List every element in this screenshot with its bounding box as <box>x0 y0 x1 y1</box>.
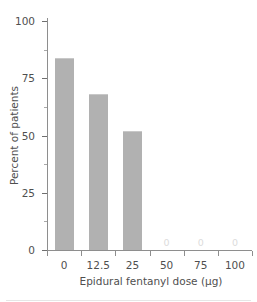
y-axis-title: Percent of patients <box>6 21 22 250</box>
x-tick <box>184 251 185 256</box>
bar-chart-figure: Percent of patients 0255075100 000 012.5… <box>0 0 257 302</box>
y-tick-label: 25 <box>22 187 35 199</box>
x-tick-label: 50 <box>160 259 173 271</box>
plot-area: 0255075100 000 012.5255075100 <box>47 21 252 250</box>
x-tick <box>47 251 48 256</box>
y-tick-major: 50 <box>42 136 47 137</box>
x-tick-label: 75 <box>194 259 207 271</box>
y-tick-minor <box>44 107 47 108</box>
y-tick-minor <box>44 164 47 165</box>
bar-value-label: 0 <box>198 237 204 248</box>
y-tick-label: 100 <box>15 15 35 27</box>
y-tick-label: 0 <box>28 244 35 256</box>
y-tick-label: 50 <box>22 130 35 142</box>
footer-divider <box>6 300 251 301</box>
y-tick-major: 75 <box>42 78 47 79</box>
x-axis-title: Epidural fentanyl dose (µg) <box>45 275 257 287</box>
x-tick <box>150 251 151 256</box>
x-tick-label: 12.5 <box>87 259 110 271</box>
y-tick-minor <box>44 221 47 222</box>
x-tick-label: 100 <box>225 259 245 271</box>
bar <box>55 58 74 250</box>
bar-value-label: 0 <box>232 237 238 248</box>
y-tick-major: 100 <box>42 21 47 22</box>
y-tick-minor <box>44 50 47 51</box>
y-tick-label: 75 <box>22 72 35 84</box>
bar <box>89 94 108 250</box>
x-tick <box>81 251 82 256</box>
y-tick-major: 25 <box>42 193 47 194</box>
bar-value-label: 0 <box>164 237 170 248</box>
bar <box>123 131 142 250</box>
x-tick <box>252 251 253 256</box>
x-tick <box>115 251 116 256</box>
x-tick-label: 0 <box>61 259 68 271</box>
x-tick <box>218 251 219 256</box>
x-tick-label: 25 <box>126 259 139 271</box>
y-axis-line <box>47 18 48 251</box>
